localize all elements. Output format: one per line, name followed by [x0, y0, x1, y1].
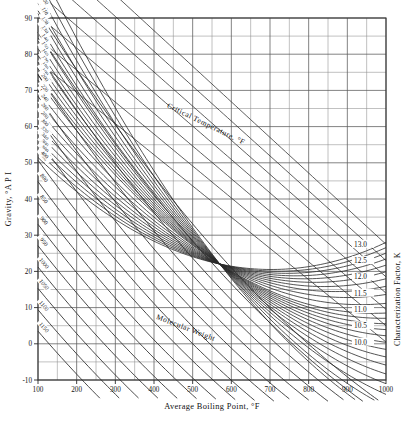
x-tick-label: 700: [265, 386, 276, 394]
k-factor-label: 11.0: [354, 305, 367, 314]
x-tick-label: 800: [303, 386, 314, 394]
x-axis-title: Average Boiling Point, °F: [164, 402, 260, 411]
y-tick-label: 40: [25, 196, 33, 204]
x-tick-label: 600: [226, 386, 237, 394]
y-tick-label: 70: [25, 87, 33, 95]
y-tick-label: 90: [25, 15, 33, 23]
molecular-weight-family-label: Molecular Weight: [155, 312, 217, 343]
k-factor-label: 11.5: [354, 289, 367, 298]
k-factor-label: 13.0: [354, 240, 367, 249]
x-tick-label: 500: [187, 386, 198, 394]
y-tick-label: 50: [25, 159, 33, 167]
y-tick-label: 80: [25, 51, 33, 59]
x-tick-label: 1000: [379, 386, 394, 394]
nomograph-canvas: 4004505005506006507007508008509009501000…: [0, 0, 416, 426]
k-factor-label: 10.0: [354, 338, 367, 347]
k-factor-label: 12.0: [354, 272, 367, 281]
y-tick-label: -10: [22, 377, 32, 385]
k-axis-title: Characterization Factor, K: [393, 252, 402, 346]
y-tick-label: 0: [28, 340, 32, 348]
x-tick-label: 400: [149, 386, 160, 394]
y-tick-label: 20: [25, 268, 33, 276]
k-factor-label: 10.5: [354, 321, 367, 330]
y-tick-label: 10: [25, 304, 33, 312]
x-tick-label: 100: [33, 386, 44, 394]
x-tick-label: 900: [342, 386, 353, 394]
k-factor-label: 12.5: [354, 256, 367, 265]
y-axis-ticks: -100102030405060708090: [22, 15, 38, 385]
y-tick-label: 60: [25, 123, 33, 131]
x-tick-label: 200: [71, 386, 82, 394]
x-axis-ticks: 1002003004005006007008009001000: [33, 380, 394, 394]
nomograph-figure: 4004505005506006507007508008509009501000…: [0, 0, 416, 426]
y-tick-label: 30: [25, 232, 33, 240]
y-axis-title: Gravity, °A P I: [4, 172, 13, 227]
k-factor-labels: 13.012.512.011.511.010.510.0: [352, 240, 374, 347]
x-tick-label: 300: [110, 386, 121, 394]
